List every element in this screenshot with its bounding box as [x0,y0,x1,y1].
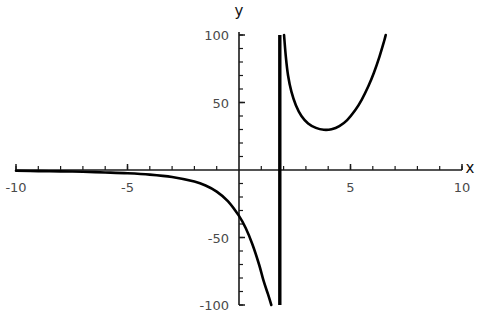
x-tick-label: 5 [346,180,354,195]
y-tick-label: 50 [212,96,229,111]
x-axis-label: x [466,159,475,177]
x-tick-label: 10 [454,180,471,195]
curve-right-branch [284,35,386,130]
y-tick-label: 100 [204,28,229,43]
y-tick-label: -100 [199,298,229,313]
x-tick-label: -10 [5,180,26,195]
plot-canvas: -10-5510 -100-5050100 x y [0,0,485,331]
x-axis-tick-labels: -10-5510 [5,180,470,195]
x-tick-label: -5 [121,180,134,195]
function-plot: -10-5510 -100-5050100 x y [0,0,485,331]
curve-left-branch [16,171,271,305]
y-tick-label: -50 [208,231,229,246]
y-axis-label: y [235,2,244,20]
